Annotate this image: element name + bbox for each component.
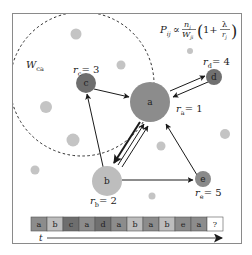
formula-one-plus: 1+ (203, 24, 218, 35)
seq-cell: b (47, 217, 63, 231)
node-d: d (206, 69, 222, 85)
node-a-label: a (147, 97, 153, 107)
background-dot (187, 48, 193, 54)
node-d-label: d (211, 72, 217, 82)
node-b: b (92, 166, 122, 196)
background-dot (220, 129, 230, 139)
visit-sequence: a b c a d a b a b e a ? (31, 217, 223, 231)
svg-text:a: a (85, 220, 90, 229)
diagram-frame (13, 14, 242, 244)
seq-cell-next: ? (207, 217, 223, 231)
formula-lambda: λ (222, 20, 227, 29)
seq-cell: e (175, 217, 191, 231)
formula-prop: ∝ (173, 24, 180, 35)
seq-cell: d (95, 217, 111, 231)
time-label: t (39, 233, 43, 243)
seq-cell: a (31, 217, 47, 231)
node-b-label: b (104, 176, 110, 186)
seq-cell: b (159, 217, 175, 231)
svg-text:e: e (181, 220, 186, 229)
svg-text:b: b (132, 220, 137, 229)
background-dot (149, 193, 156, 200)
node-c-label: c (83, 78, 88, 88)
svg-text:d: d (100, 220, 105, 229)
svg-text:b: b (164, 220, 169, 229)
svg-text:?: ? (213, 220, 217, 229)
background-dot (67, 134, 80, 147)
seq-cell: a (79, 217, 95, 231)
background-dot (40, 101, 52, 113)
formula-paren-close: ) (231, 22, 237, 41)
seq-cell: a (111, 217, 127, 231)
background-dot (117, 61, 126, 70)
seq-cell: c (63, 217, 79, 231)
svg-text:a: a (197, 220, 202, 229)
seq-cell: a (143, 217, 159, 231)
background-dot (157, 142, 166, 151)
svg-text:b: b (52, 220, 57, 229)
preferential-return-diagram: Wca a b c d e rc= 3 (0, 0, 252, 255)
node-a: a (130, 82, 170, 122)
svg-text:a: a (117, 220, 122, 229)
node-e: e (195, 171, 211, 187)
node-e-label: e (200, 174, 205, 184)
svg-text:c: c (69, 220, 74, 229)
seq-cell: b (127, 217, 143, 231)
background-dot (71, 29, 82, 40)
seq-cell: a (191, 217, 207, 231)
svg-text:a: a (37, 220, 42, 229)
background-dot (31, 166, 40, 175)
svg-text:a: a (149, 220, 154, 229)
